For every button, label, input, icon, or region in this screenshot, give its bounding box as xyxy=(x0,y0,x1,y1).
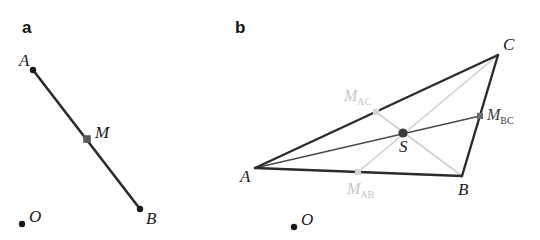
point-b-label: B xyxy=(146,209,157,228)
centroid-s-label: S xyxy=(399,137,408,156)
origin-o-label-panel-b: O xyxy=(301,210,313,229)
figure-root: a A M B O b xyxy=(0,0,540,240)
origin-o-marker-panel-b xyxy=(291,224,297,230)
midpoint-mab-label: MAB xyxy=(346,180,375,200)
panel-a: a A M B O xyxy=(18,18,157,228)
midpoint-m-label: M xyxy=(94,123,110,142)
panel-a-letter: a xyxy=(22,18,32,37)
panel-b: b A B C S MAC xyxy=(235,18,515,230)
geometry-figure-canvas: a A M B O b xyxy=(0,0,540,240)
midpoint-m-marker xyxy=(83,135,91,143)
panel-b-letter: b xyxy=(235,18,245,37)
point-a-marker xyxy=(30,67,36,73)
point-a-label: A xyxy=(18,51,30,70)
midpoint-mab-marker xyxy=(355,169,361,175)
midpoint-mbc-label: MBC xyxy=(486,106,514,126)
point-b-marker xyxy=(137,206,143,212)
triangle-vertex-a-label: A xyxy=(239,167,251,186)
origin-o-label-panel-a: O xyxy=(29,207,41,226)
triangle-vertex-c-label: C xyxy=(503,35,515,54)
midpoint-mbc-marker xyxy=(477,113,483,119)
origin-o-marker-panel-a xyxy=(19,221,25,227)
midpoint-mac-label: MAC xyxy=(343,87,372,107)
midpoint-mac-marker xyxy=(373,109,379,115)
median-a-to-mbc xyxy=(255,116,480,168)
triangle-vertex-b-label: B xyxy=(458,180,469,199)
